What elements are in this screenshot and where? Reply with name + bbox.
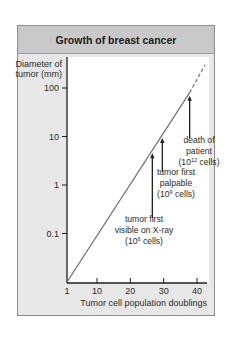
y-tick-label: 1 (54, 180, 59, 190)
x-axis-label: Tumor cell population doublings (80, 298, 207, 308)
x-tick-label: 30 (159, 286, 169, 296)
annotation-palpable-line: palpable (160, 178, 193, 188)
y-tick-label: 0.1 (46, 229, 59, 239)
y-tick-label: 100 (44, 83, 59, 93)
annotation-xray-line: visible on X-ray (115, 225, 174, 235)
annotation-death-line: death of (183, 135, 215, 145)
annotation-xray-cells: (106 cells) (125, 236, 163, 247)
x-tick-label: 1 (64, 286, 69, 296)
y-tick-label: 10 (49, 132, 59, 142)
annotation-palpable-line: tumor first (157, 167, 196, 177)
y-axis-label-line2: tumor (mm) (16, 69, 63, 79)
annotation-death-line: patient (186, 146, 212, 156)
y-axis-label-line1: Diameter of (15, 59, 62, 69)
x-tick-label: 10 (92, 286, 102, 296)
annotation-death-cells: (1012 cells) (179, 157, 220, 168)
x-tick-label: 20 (125, 286, 135, 296)
x-tick-label: 40 (192, 286, 202, 296)
annotation-palpable-cells: (109 cells) (157, 189, 195, 200)
annotation-xray-line: tumor first (125, 214, 164, 224)
chart-svg: Diameter of tumor (mm) 1001010.111020304… (0, 0, 230, 337)
